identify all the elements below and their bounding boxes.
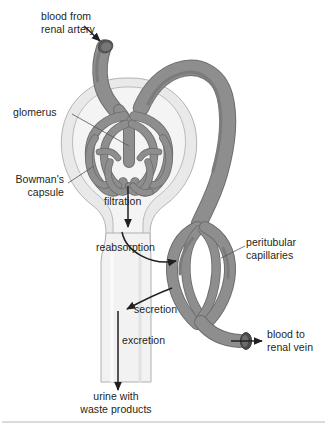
label-peritubular-capillaries: peritubular capillaries [246,236,296,261]
label-bowmans-capsule: Bowman's capsule [0,173,64,198]
label-blood-from-renal-artery: blood from renal artery [41,10,95,35]
nephron-illustration [0,0,327,431]
afferent-arteriole-shape [97,38,117,112]
label-glomerus: glomerus [13,106,57,119]
label-excretion: excretion [122,334,165,347]
label-blood-to-renal-vein: blood to renal vein [267,328,313,353]
label-filtration: filtration [104,195,141,208]
nephron-diagram: blood from renal artery glomerus Bowman'… [0,0,327,431]
label-urine-with-waste-products: urine with waste products [56,390,176,415]
peritubular-capillaries-shape [172,227,240,341]
label-reabsorption: reabsorption [96,241,155,254]
label-secretion: secretion [134,303,177,316]
